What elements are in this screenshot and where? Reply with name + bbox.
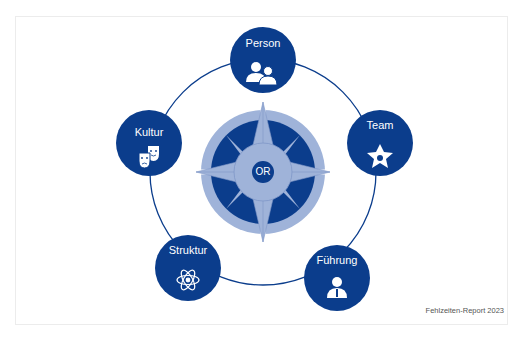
node-label-struktur: Struktur bbox=[153, 244, 223, 256]
node-label-fuehrung: Führung bbox=[302, 254, 372, 266]
node-label-kultur: Kultur bbox=[114, 126, 184, 138]
source-credit: Fehlzeiten-Report 2023 bbox=[426, 306, 504, 315]
center-label: OR bbox=[248, 166, 278, 177]
node-label-team: Team bbox=[345, 119, 415, 131]
node-kultur[interactable] bbox=[116, 110, 182, 176]
node-label-person: Person bbox=[228, 37, 298, 49]
